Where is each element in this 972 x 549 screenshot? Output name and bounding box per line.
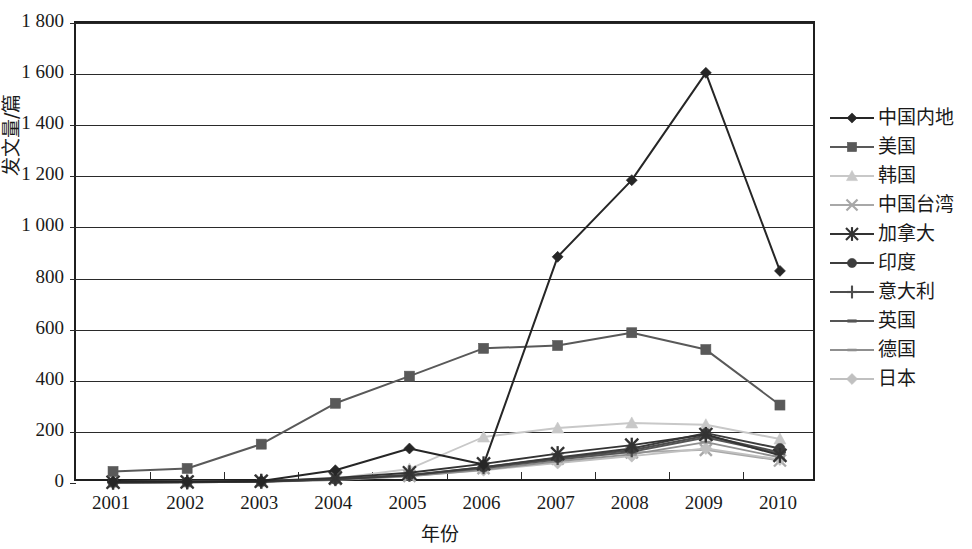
- data-point-marker: [775, 400, 785, 410]
- data-point-marker: [182, 463, 192, 473]
- legend-item-label: 美国: [878, 137, 916, 156]
- y-axis-tick-label: 200: [0, 420, 64, 439]
- series-layer: [76, 23, 817, 483]
- x-axis-tick-label: 2002: [145, 493, 225, 512]
- data-point-marker: [847, 112, 857, 122]
- data-point-marker: [846, 373, 857, 384]
- data-point-marker: [404, 443, 415, 454]
- y-axis-tick-label: 600: [0, 318, 64, 337]
- series-2: [107, 417, 786, 488]
- x-axis-tick-label: 2007: [516, 493, 596, 512]
- legend-item-label: 加拿大: [878, 224, 935, 243]
- legend-item-中国内地[interactable]: 中国内地: [829, 103, 972, 132]
- legend-item-label: 中国台湾: [878, 195, 954, 214]
- legend-marker-icon: [829, 223, 875, 245]
- data-point-marker: [701, 345, 711, 355]
- data-point-marker: [774, 265, 785, 276]
- legend-marker-icon: [829, 339, 875, 361]
- legend-marker-icon: [829, 165, 875, 187]
- series-8: [108, 441, 785, 484]
- legend-item-印度[interactable]: 印度: [829, 248, 972, 277]
- legend-item-加拿大[interactable]: 加拿大: [829, 219, 972, 248]
- legend-item-韩国[interactable]: 韩国: [829, 161, 972, 190]
- series-1: [108, 328, 785, 477]
- legend-item-label: 英国: [878, 311, 916, 330]
- x-axis-tick-label: 2006: [442, 493, 522, 512]
- data-point-marker: [847, 142, 856, 151]
- chart-legend: 中国内地美国韩国中国台湾加拿大印度意大利英国德国日本: [829, 103, 972, 393]
- legend-marker-icon: [829, 281, 875, 303]
- data-point-marker: [256, 439, 266, 449]
- legend-marker-icon: [829, 310, 875, 332]
- legend-marker-icon: [829, 368, 875, 390]
- data-point-marker: [108, 467, 118, 477]
- y-axis-tick-label: 1 400: [0, 113, 64, 132]
- legend-item-意大利[interactable]: 意大利: [829, 277, 972, 306]
- x-axis-tick-label: 2003: [219, 493, 299, 512]
- plot-area: [74, 21, 815, 481]
- legend-item-德国[interactable]: 德国: [829, 335, 972, 364]
- y-axis-tick: [70, 483, 76, 484]
- x-axis-tick-label: 2009: [664, 493, 744, 512]
- legend-item-label: 意大利: [878, 282, 935, 301]
- data-point-marker: [847, 319, 856, 322]
- legend-marker-icon: [829, 107, 875, 129]
- legend-marker-icon: [829, 252, 875, 274]
- legend-item-日本[interactable]: 日本: [829, 364, 972, 393]
- y-axis-title: 发文量/篇: [0, 26, 23, 176]
- y-axis-tick-label: 1 000: [0, 215, 64, 234]
- data-point-marker: [330, 398, 340, 408]
- y-axis-tick-label: 1 200: [0, 164, 64, 183]
- series-4: [107, 427, 787, 490]
- legend-item-label: 德国: [878, 340, 916, 359]
- legend-item-label: 中国内地: [878, 108, 954, 127]
- legend-item-label: 韩国: [878, 166, 916, 185]
- data-point-marker: [846, 285, 857, 298]
- series-7: [108, 436, 785, 484]
- legend-item-label: 印度: [878, 253, 916, 272]
- x-axis-tick-label: 2001: [71, 493, 151, 512]
- legend-item-label: 日本: [878, 369, 916, 388]
- y-axis-tick-label: 0: [0, 471, 64, 490]
- x-axis-tick-label: 2005: [367, 493, 447, 512]
- data-point-marker: [404, 371, 414, 381]
- y-axis-tick-label: 1 800: [0, 11, 64, 30]
- chart-root: 发文量/篇 02004006008001 0001 2001 4001 6001…: [0, 0, 972, 549]
- y-axis-tick-label: 800: [0, 267, 64, 286]
- legend-marker-icon: [829, 194, 875, 216]
- legend-marker-icon: [829, 136, 875, 158]
- x-axis-tick-label: 2008: [590, 493, 670, 512]
- data-point-marker: [553, 341, 563, 351]
- data-point-marker: [847, 348, 856, 351]
- x-axis-tick-label: 2010: [738, 493, 818, 512]
- legend-item-美国[interactable]: 美国: [829, 132, 972, 161]
- legend-item-英国[interactable]: 英国: [829, 306, 972, 335]
- x-axis-title: 年份: [0, 519, 880, 546]
- legend-item-中国台湾[interactable]: 中国台湾: [829, 190, 972, 219]
- y-axis-tick-label: 1 600: [0, 62, 64, 81]
- data-point-marker: [627, 328, 637, 338]
- x-axis-tick-label: 2004: [293, 493, 373, 512]
- data-point-marker: [479, 343, 489, 353]
- y-axis-tick-label: 400: [0, 369, 64, 388]
- data-point-marker: [847, 258, 856, 267]
